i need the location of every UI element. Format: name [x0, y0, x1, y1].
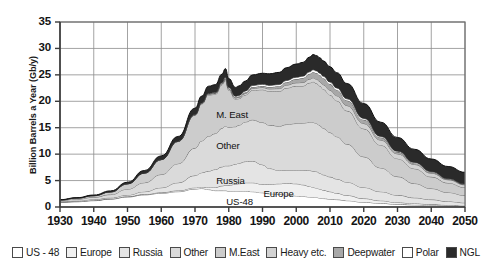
legend-swatch-icon: [170, 247, 181, 258]
y-tick-25: 25: [21, 68, 51, 80]
y-tick-15: 15: [21, 121, 51, 133]
legend-label: Other: [184, 247, 208, 258]
y-tick-35: 35: [21, 15, 51, 27]
y-tick-30: 30: [21, 41, 51, 53]
legend-label: Deepwater: [347, 247, 394, 258]
legend-swatch-icon: [266, 247, 277, 258]
legend-label: Polar: [416, 247, 439, 258]
chart-container: Billion Barrels a Year (Gb/y) 0510152025…: [0, 0, 489, 273]
legend-item-heavy[interactable]: Heavy etc.: [266, 247, 326, 258]
area-label-m-east: M. East: [216, 109, 248, 120]
legend-label: Heavy etc.: [280, 247, 326, 258]
chart-legend: US - 48EuropeRussiaOtherM.EastHeavy etc.…: [12, 241, 480, 263]
stacked-area-plot: [0, 0, 489, 273]
legend-label: M.East: [229, 247, 260, 258]
legend-swatch-icon: [402, 247, 413, 258]
area-label-europe: Europe: [263, 188, 293, 199]
y-tick-0: 0: [21, 200, 51, 212]
legend-item-russia[interactable]: Russia: [119, 247, 163, 258]
area-label-us-48: US-48: [226, 196, 253, 207]
legend-label: Europe: [80, 247, 112, 258]
legend-item-ngl[interactable]: NGL: [446, 247, 480, 258]
legend-swatch-icon: [333, 247, 344, 258]
legend-item-europe[interactable]: Europe: [66, 247, 112, 258]
legend-item-deepwater[interactable]: Deepwater: [333, 247, 394, 258]
legend-swatch-icon: [215, 247, 226, 258]
legend-item-other[interactable]: Other: [170, 247, 208, 258]
legend-swatch-icon: [446, 247, 457, 258]
legend-item-polar[interactable]: Polar: [402, 247, 439, 258]
legend-item-meast[interactable]: M.East: [215, 247, 260, 258]
area-label-russia: Russia: [216, 175, 245, 186]
legend-item-us48[interactable]: US - 48: [12, 247, 59, 258]
legend-swatch-icon: [66, 247, 77, 258]
legend-label: NGL: [460, 247, 480, 258]
x-tick-2050: 2050: [443, 214, 487, 228]
y-tick-20: 20: [21, 94, 51, 106]
legend-swatch-icon: [12, 247, 23, 258]
legend-label: Russia: [133, 247, 163, 258]
y-tick-10: 10: [21, 147, 51, 159]
legend-swatch-icon: [119, 247, 130, 258]
y-tick-5: 5: [21, 174, 51, 186]
legend-label: US - 48: [26, 247, 59, 258]
area-label-other: Other: [216, 140, 240, 151]
